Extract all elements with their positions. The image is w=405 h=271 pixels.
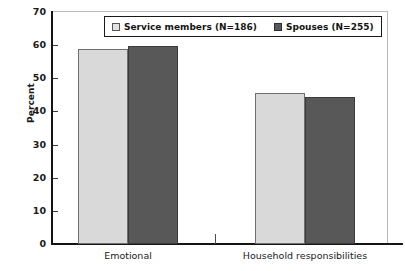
- bar: [255, 93, 305, 244]
- y-axis-tick-label: 0: [18, 239, 46, 249]
- y-axis-tick-label: 70: [18, 7, 46, 17]
- x-axis-category-label: Household responsibilities: [215, 250, 395, 261]
- y-axis-tick-label: 30: [18, 140, 46, 150]
- bar: [305, 97, 355, 244]
- plot-area: [53, 12, 388, 244]
- chart-legend: Service members (N=186)Spouses (N=255): [104, 16, 382, 37]
- legend-item: Spouses (N=255): [274, 22, 374, 32]
- legend-item: Service members (N=186): [112, 22, 257, 32]
- legend-item-label: Spouses (N=255): [286, 22, 374, 32]
- dark-square-icon: [274, 23, 282, 31]
- y-axis-tick-label: 10: [18, 206, 46, 216]
- bar: [78, 49, 128, 244]
- legend-item-label: Service members (N=186): [124, 22, 257, 32]
- light-square-icon: [112, 23, 120, 31]
- y-axis-tick-label: 60: [18, 40, 46, 50]
- y-axis-tick-label: 50: [18, 73, 46, 83]
- x-axis-category-label: Emotional: [38, 250, 218, 261]
- bar-chart: Percent 010203040506070 EmotionalHouseho…: [0, 0, 405, 271]
- y-axis-tick-label: 40: [18, 106, 46, 116]
- bar: [128, 46, 178, 244]
- y-axis-tick-label: 20: [18, 173, 46, 183]
